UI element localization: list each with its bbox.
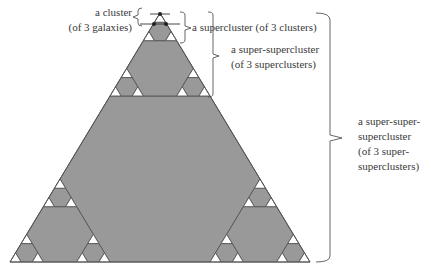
label-super-supercluster: a super-supercluster (of 3 superclusters… xyxy=(231,42,319,72)
galaxy-dot-icon xyxy=(164,22,168,26)
galaxy-dot-icon xyxy=(158,12,162,16)
label-cluster-line-2: (of 3 galaxies) xyxy=(68,20,132,35)
bracket-supercluster xyxy=(180,12,191,43)
label-super-supercluster-line-2: (of 3 superclusters) xyxy=(231,57,319,72)
label-supercluster: a supercluster (of 3 clusters) xyxy=(192,20,317,35)
label-super-super-supercluster: a super-super- supercluster (of 3 super-… xyxy=(358,114,420,174)
label-super-supercluster-line-1: a super-supercluster xyxy=(231,42,319,57)
bracket-super-super-supercluster xyxy=(316,13,342,262)
label-sss-line-1: a super-super- xyxy=(358,114,420,129)
label-sss-line-2: supercluster xyxy=(358,129,420,144)
bracket-cluster xyxy=(133,8,142,26)
label-cluster-line-1: a cluster xyxy=(68,5,132,20)
label-supercluster-line-1: a supercluster (of 3 clusters) xyxy=(192,20,317,35)
label-sss-line-4: superclusters) xyxy=(358,159,420,174)
galaxy-dot-icon xyxy=(152,22,156,26)
label-cluster: a cluster (of 3 galaxies) xyxy=(68,5,132,35)
label-sss-line-3: (of 3 super- xyxy=(358,144,420,159)
